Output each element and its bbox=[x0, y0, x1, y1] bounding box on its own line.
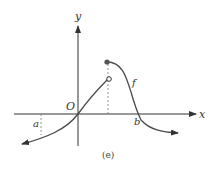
function-graph: y x O a b f (e) bbox=[0, 0, 215, 176]
curve-left-branch bbox=[22, 79, 108, 144]
point-label-b: b bbox=[134, 116, 140, 127]
curve-right-branch bbox=[107, 62, 178, 133]
point-label-a: a bbox=[33, 118, 39, 129]
function-label: f bbox=[131, 77, 138, 88]
open-point bbox=[107, 77, 112, 82]
origin-label: O bbox=[66, 100, 75, 113]
filled-point bbox=[104, 59, 109, 64]
x-axis-label: x bbox=[199, 108, 206, 121]
figure-caption: (e) bbox=[102, 150, 114, 160]
y-axis-label: y bbox=[74, 10, 82, 23]
